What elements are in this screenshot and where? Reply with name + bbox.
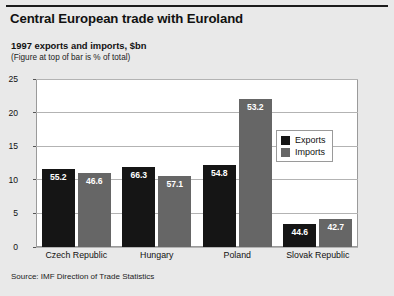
y-axis-tick-label: 25 bbox=[0, 74, 18, 84]
header-rule bbox=[6, 5, 388, 7]
bar-value-label: 66.3 bbox=[122, 170, 155, 180]
bar-value-label: 57.1 bbox=[158, 179, 191, 189]
y-axis-tick-label: 5 bbox=[0, 208, 18, 218]
y-axis-tick-mark bbox=[33, 179, 36, 180]
bar-value-label: 44.6 bbox=[283, 227, 316, 237]
bar-imports: 57.1 bbox=[158, 176, 191, 247]
x-axis-category-label: Czech Republic bbox=[36, 250, 117, 260]
legend-label-exports: Exports bbox=[295, 135, 326, 145]
bar-exports: 44.6 bbox=[283, 224, 316, 247]
bar-value-label: 54.8 bbox=[203, 168, 236, 178]
x-axis-category-label: Slovak Republic bbox=[278, 250, 359, 260]
x-axis-category-label: Hungary bbox=[117, 250, 198, 260]
x-axis-category-label: Poland bbox=[197, 250, 278, 260]
chart-note: (Figure at top of bar is % of total) bbox=[11, 53, 130, 62]
y-axis-tick-mark bbox=[33, 146, 36, 147]
y-axis-tick-label: 20 bbox=[0, 108, 18, 118]
chart-legend: Exports Imports bbox=[276, 130, 333, 162]
gridline bbox=[36, 79, 358, 80]
bar-value-label: 46.6 bbox=[78, 176, 111, 186]
plot-wrapper: 0510152025 55.246.666.357.154.853.244.64… bbox=[36, 79, 358, 247]
chart-title: Central European trade with Euroland bbox=[10, 11, 380, 26]
y-axis-tick-label: 10 bbox=[0, 175, 18, 185]
legend-swatch-imports-icon bbox=[281, 148, 290, 157]
bar-imports: 46.6 bbox=[78, 173, 111, 247]
y-axis-tick-mark bbox=[33, 112, 36, 113]
legend-label-imports: Imports bbox=[295, 147, 325, 157]
bar-exports: 54.8 bbox=[203, 165, 236, 247]
chart-subtitle: 1997 exports and imports, $bn bbox=[11, 40, 146, 51]
legend-item-exports: Exports bbox=[281, 134, 326, 146]
y-axis-tick-mark bbox=[33, 247, 36, 248]
gridline bbox=[36, 112, 358, 113]
bar-value-label: 53.2 bbox=[239, 102, 272, 112]
y-axis-tick-mark bbox=[33, 213, 36, 214]
y-axis-tick-label: 15 bbox=[0, 141, 18, 151]
bar-exports: 66.3 bbox=[122, 167, 155, 247]
bar-exports: 55.2 bbox=[42, 169, 75, 247]
bar-value-label: 55.2 bbox=[42, 172, 75, 182]
bar-value-label: 42.7 bbox=[319, 222, 352, 232]
source-note: Source: IMF Direction of Trade Statistic… bbox=[11, 272, 154, 281]
y-axis-tick-label: 0 bbox=[0, 242, 18, 252]
legend-item-imports: Imports bbox=[281, 146, 326, 158]
chart-figure: Central European trade with Euroland 199… bbox=[0, 0, 394, 296]
legend-swatch-exports-icon bbox=[281, 136, 290, 145]
bar-imports: 42.7 bbox=[319, 219, 352, 247]
y-axis-tick-mark bbox=[33, 79, 36, 80]
bar-imports: 53.2 bbox=[239, 99, 272, 247]
